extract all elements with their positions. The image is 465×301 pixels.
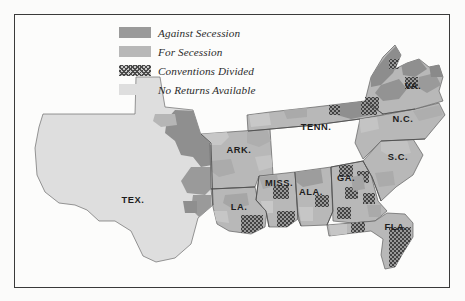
map-frame: Against Secession For Secession Conventi… [14, 14, 450, 288]
state-label-alabama: ALA. [299, 187, 323, 197]
legend-item-against-secession: Against Secession [119, 23, 256, 42]
map-legend: Against Secession For Secession Conventi… [119, 23, 256, 99]
state-label-south-carolina: S.C. [388, 152, 408, 162]
state-label-arkansas: ARK. [227, 145, 252, 155]
legend-label-for-secession: For Secession [158, 46, 222, 58]
legend-item-conventions-divided: Conventions Divided [119, 61, 256, 80]
state-label-louisiana: LA. [231, 202, 248, 212]
state-label-georgia: GA. [337, 173, 355, 183]
legend-item-no-returns-available: No Returns Available [119, 80, 256, 99]
legend-label-no-returns-available: No Returns Available [158, 84, 256, 96]
state-label-virginia: VA. [405, 81, 421, 91]
dark-gray-swatch-icon [119, 27, 151, 38]
legend-item-for-secession: For Secession [119, 42, 256, 61]
state-label-texas: TEX. [122, 195, 145, 205]
state-label-mississippi: MISS. [265, 178, 293, 188]
medium-gray-swatch-icon [119, 46, 151, 57]
legend-label-against-secession: Against Secession [158, 27, 240, 39]
screenshot-root: Against Secession For Secession Conventi… [0, 0, 465, 301]
state-label-north-carolina: N.C. [393, 114, 414, 124]
state-region-texas [35, 77, 213, 262]
state-label-tennessee: TENN. [301, 122, 332, 132]
map-stage: Against Secession For Secession Conventi… [15, 15, 449, 287]
crosshatch-swatch-icon [119, 65, 151, 76]
legend-label-conventions-divided: Conventions Divided [158, 65, 254, 77]
state-label-florida: FLA. [385, 222, 408, 232]
light-gray-swatch-icon [119, 84, 151, 95]
